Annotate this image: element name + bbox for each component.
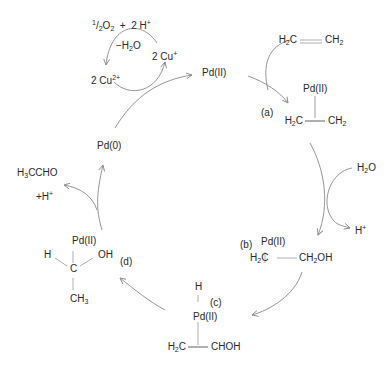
complex-c-c: C xyxy=(179,341,186,352)
complex-a-ch-sub: 2 xyxy=(342,120,346,127)
copper-i-label: 2 Cu+ xyxy=(152,50,177,62)
complex-d-oh: OH xyxy=(98,250,113,260)
proton-release: +H+ xyxy=(36,190,53,202)
acetaldehyde-rest: CCHO xyxy=(28,167,57,178)
ethylene-right: CH2 xyxy=(325,35,343,46)
complex-a-right: CH2 xyxy=(328,116,346,127)
step-label-d: (d) xyxy=(120,257,132,267)
complex-c-metal: Pd(II) xyxy=(193,312,217,322)
complex-a-metal: Pd(II) xyxy=(303,84,327,94)
complex-b-c: C xyxy=(261,252,268,263)
copper-ii-charge: 2+ xyxy=(112,74,120,81)
copper-ii-label: 2 Cu2+ xyxy=(91,74,120,86)
acetaldehyde-product: H3CCHO xyxy=(17,168,58,179)
water-o: O xyxy=(368,162,376,173)
copper-ii-text: 2 Cu xyxy=(91,75,112,86)
complex-b-left: H2C xyxy=(250,253,268,264)
arrow-product-out xyxy=(64,185,97,210)
complex-d-methyl: CH3 xyxy=(70,294,88,305)
water-loss-h: −H xyxy=(116,40,129,51)
ethylene-c: C xyxy=(290,34,297,45)
plus-sign: + xyxy=(120,20,126,31)
complex-a-left: H2C xyxy=(285,116,303,127)
step-label-c: (c) xyxy=(210,298,222,308)
complex-d-h: H xyxy=(44,250,51,260)
step-label-a: (a) xyxy=(261,108,273,118)
proton-charge: + xyxy=(362,224,366,231)
fraction-numerator: 1 xyxy=(92,19,96,26)
oxygen-proton-input: 1/2O2 + 2 H+ xyxy=(92,19,151,32)
complex-d-carbon: C xyxy=(70,264,77,274)
ethylene-left: H2C xyxy=(279,35,297,46)
pd-ii-catalyst: Pd(II) xyxy=(202,68,226,78)
proton-charge: + xyxy=(147,19,151,26)
proton-release-h: +H xyxy=(36,191,49,202)
ethylene-ch: CH xyxy=(325,34,339,45)
complex-b-metal: Pd(II) xyxy=(261,237,285,247)
complex-d-ch-sub: 3 xyxy=(84,298,88,305)
arrow-ethylene-in xyxy=(266,40,290,90)
complex-a-ch: CH xyxy=(328,115,342,126)
complex-c-left: H2C xyxy=(168,342,186,353)
complex-c-right: CHOH xyxy=(211,342,240,352)
proton-count: 2 H xyxy=(131,20,147,31)
water-loss-o: O xyxy=(133,40,141,51)
arrow-a-to-b xyxy=(310,143,325,235)
ethylene-ch-sub: 2 xyxy=(339,39,343,46)
complex-d-metal: Pd(II) xyxy=(72,236,96,246)
complex-b-right: CH2OH xyxy=(299,253,332,264)
copper-i-charge: + xyxy=(173,50,177,57)
copper-i-text: 2 Cu xyxy=(152,51,173,62)
step-label-b: (b) xyxy=(240,240,252,250)
complex-d-ch: CH xyxy=(70,293,84,304)
proton-product: H+ xyxy=(355,224,366,236)
water-loss-label: −H2O xyxy=(116,41,141,52)
arrow-c-to-d xyxy=(120,278,165,310)
oxygen-subscript: 2 xyxy=(110,25,114,32)
complex-b-ch: CH xyxy=(299,252,313,263)
pd-0-species: Pd(0) xyxy=(97,141,121,151)
proton-release-charge: + xyxy=(49,190,53,197)
complex-c-hydride: H xyxy=(195,282,202,292)
complex-a-c: C xyxy=(296,115,303,126)
complex-b-oh: OH xyxy=(317,252,332,263)
water-reagent: H2O xyxy=(357,163,376,174)
arrow-b-to-c xyxy=(252,272,302,315)
arrow-d-to-pd0 xyxy=(98,165,103,230)
arrow-water-hplus xyxy=(327,168,352,228)
